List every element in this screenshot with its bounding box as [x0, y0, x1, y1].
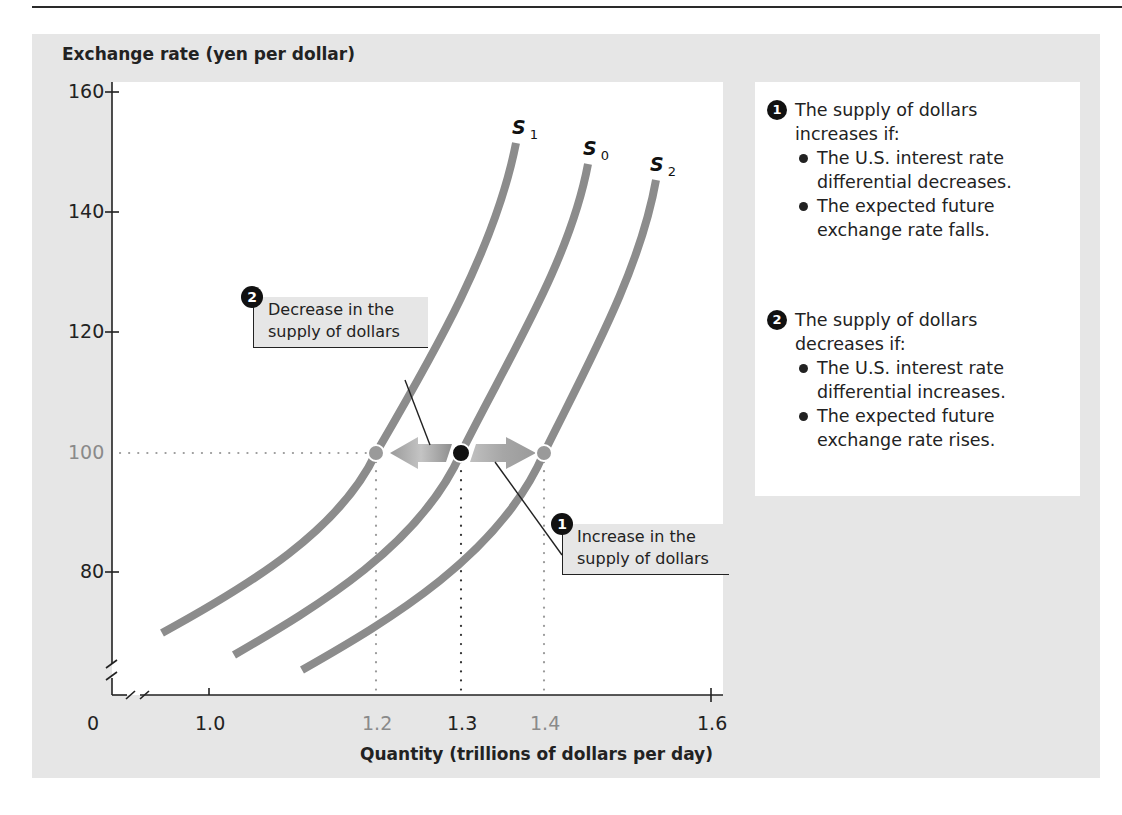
- explanation-increase-list: The U.S. interest rate differential decr…: [767, 146, 1012, 242]
- point-s2-equilibrium: [536, 445, 552, 461]
- explanation-increase-heading: 1 The supply of dollars increases if:: [767, 98, 1012, 146]
- number-badge-2: 2: [241, 286, 263, 308]
- explanation-decrease-heading: 2 The supply of dollars decreases if:: [767, 308, 1006, 356]
- explanation-decrease: 2 The supply of dollars decreases if: Th…: [767, 308, 1006, 452]
- explanation-increase: 1 The supply of dollars increases if: Th…: [767, 98, 1012, 242]
- number-badge-1: 1: [551, 513, 573, 535]
- label-s0: S0: [583, 137, 609, 163]
- point-s0-equilibrium: [452, 444, 470, 462]
- explanation-decrease-list: The U.S. interest rate differential incr…: [767, 356, 1006, 452]
- number-badge-2: 2: [767, 310, 787, 330]
- label-s1: S1: [512, 116, 538, 142]
- number-badge-1: 1: [767, 100, 787, 120]
- callout-decrease-line2: supply of dollars: [268, 321, 420, 343]
- curve-s0: [234, 164, 588, 655]
- bullet-item: The U.S. interest rate differential incr…: [795, 356, 1006, 404]
- bullet-item: The expected future exchange rate rises.: [795, 404, 1006, 452]
- x-axis-break-icon: [126, 691, 135, 699]
- explanation-panel: 1 The supply of dollars increases if: Th…: [755, 82, 1080, 496]
- guide-lines: [120, 453, 544, 695]
- callout-increase: Increase in the supply of dollars: [562, 524, 729, 575]
- point-s1-equilibrium: [368, 445, 384, 461]
- callout-decrease-line1: Decrease in the: [268, 299, 420, 321]
- arrow-left-icon: [390, 437, 452, 469]
- bullet-item: The expected future exchange rate falls.: [795, 194, 1012, 242]
- label-s2: S2: [650, 153, 676, 179]
- callout-decrease: Decrease in the supply of dollars: [253, 297, 428, 348]
- arrow-right-icon: [470, 437, 536, 469]
- bullet-item: The U.S. interest rate differential decr…: [795, 146, 1012, 194]
- callout-increase-line2: supply of dollars: [577, 548, 721, 570]
- callout-increase-line1: Increase in the: [577, 526, 721, 548]
- supply-curves: [162, 143, 656, 670]
- leader-decrease: [405, 380, 430, 445]
